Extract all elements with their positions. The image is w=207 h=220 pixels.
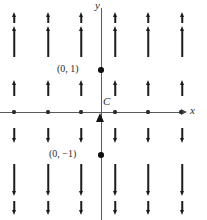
field-arrow-down [145,164,151,196]
field-arrow-down [11,201,17,215]
x-axis-tick-dot [79,110,82,113]
field-arrow-up [179,26,185,57]
field-arrow-down [78,201,84,215]
field-arrow-down [78,128,84,143]
field-arrow-down [45,128,51,143]
field-arrow-down [45,164,51,196]
x-axis-tick-dot [179,110,182,113]
field-arrow-down [45,201,51,215]
field-arrow-down [179,201,185,215]
field-arrow-up [11,12,17,23]
curve-label: C [103,95,110,107]
x-axis-tick-dot [113,110,116,113]
field-arrow-up [145,80,151,96]
field-arrow-up [112,80,118,96]
x-axis-tick-dot [46,110,49,113]
field-arrow-down [112,128,118,143]
field-arrow-down [11,164,17,196]
curve-direction-arrowhead [96,113,104,122]
field-arrow-up [45,12,51,23]
field-arrow-down [112,201,118,215]
y-axis-label: y [95,0,100,11]
x-axis-label: x [190,104,195,116]
field-arrow-up [145,26,151,57]
point-0-minus-1 [98,152,104,158]
field-arrow-up [45,26,51,57]
field-arrow-down [179,128,185,143]
vector-field-figure: y x C (0, 1) (0, −1) [0,0,207,220]
x-axis-tick-dot [146,110,149,113]
field-arrow-up [112,26,118,57]
field-arrow-up [11,26,17,57]
field-arrow-down [78,164,84,196]
field-arrow-up [179,80,185,96]
point-lower-label: (0, −1) [49,148,76,159]
field-arrow-up [145,12,151,23]
point-upper-label: (0, 1) [57,63,79,74]
x-axis [0,112,183,113]
field-arrow-up [45,80,51,96]
field-arrow-down [11,128,17,143]
x-axis-tick-dot [12,110,15,113]
field-arrow-down [145,201,151,215]
field-arrow-up [78,12,84,23]
field-arrow-down [179,164,185,196]
point-0-1 [98,67,104,73]
field-arrow-up [78,26,84,57]
field-arrow-up [179,12,185,23]
field-arrow-up [112,12,118,23]
field-arrow-up [78,80,84,96]
field-arrow-up [11,80,17,96]
field-arrow-down [112,164,118,196]
field-arrow-down [145,128,151,143]
